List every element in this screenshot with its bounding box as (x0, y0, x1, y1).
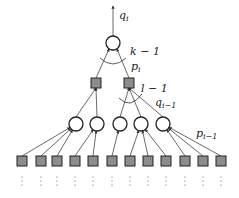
ellipsis-dot (220, 176, 221, 177)
circle-node (90, 117, 104, 131)
ellipsis-dot (147, 184, 148, 185)
ellipsis-dot (21, 184, 22, 185)
label-top-fanin: k − 1 (130, 45, 160, 58)
input-square-node (125, 156, 135, 166)
ellipsis-dot (40, 180, 41, 181)
top-fanin-arc (100, 58, 126, 64)
edges (22, 6, 221, 156)
ellipsis-dot (184, 180, 185, 181)
circle-node (134, 117, 148, 131)
input-square-node (88, 156, 98, 166)
edge-circle-to-square (96, 88, 97, 117)
input-square-node (216, 156, 226, 166)
ellipsis-dot (74, 180, 75, 181)
ellipsis-dot (184, 176, 185, 177)
edge-input-to-circle (142, 131, 148, 156)
label-bottom-edge: pi−1 (196, 127, 217, 141)
ellipsis-dot (165, 180, 166, 181)
ellipsis-dot (165, 184, 166, 185)
ellipsis-dot (21, 176, 22, 177)
nodes (17, 36, 226, 166)
input-square-node (161, 156, 171, 166)
ellipsis-dot (202, 180, 203, 181)
ellipsis-dot (111, 184, 112, 185)
top-circle-node (106, 36, 120, 50)
ellipsis-dot (220, 180, 221, 181)
circle-node (156, 117, 170, 131)
label-mid-edge: qi−1 (155, 96, 176, 110)
ellipsis-dot (40, 184, 41, 185)
ellipsis-dot (56, 184, 57, 185)
edge-square-to-top (96, 49, 109, 78)
mid-square-node (124, 78, 134, 88)
mid-fanin-arc (119, 94, 142, 103)
ellipsis-dot (111, 176, 112, 177)
ellipsis-dot (165, 176, 166, 177)
ellipsis-dot (111, 180, 112, 181)
ellipsis-dot (129, 184, 130, 185)
edge-input-to-circle (112, 131, 118, 156)
input-square-node (180, 156, 190, 166)
ellipsis-dot (147, 176, 148, 177)
edge-input-to-circle (145, 130, 166, 156)
input-square-node (52, 156, 62, 166)
input-square-node (70, 156, 80, 166)
input-square-node (36, 156, 46, 166)
ellipsis-dot (184, 184, 185, 185)
input-square-node (107, 156, 117, 166)
edge-circle-to-square (76, 88, 96, 117)
ellipsis-dot (92, 184, 93, 185)
tree-diagram: qi k − 1 pi l − 1 qi−1 pi−1 (0, 0, 239, 198)
input-square-node (17, 156, 27, 166)
input-square-node (198, 156, 208, 166)
ellipsis-dot (40, 176, 41, 177)
ellipsis-dot (202, 184, 203, 185)
edge-input-to-circle (75, 130, 93, 156)
circle-node (113, 117, 127, 131)
ellipsis-dot (147, 180, 148, 181)
label-top-output: qi (119, 9, 129, 23)
edge-input-to-circle (130, 131, 139, 156)
ellipsis-dot (92, 176, 93, 177)
edge-square-to-top (117, 49, 129, 78)
label-top-edge: pi (131, 60, 141, 74)
edge-input-to-circle (93, 131, 96, 156)
ellipsis-dot (220, 184, 221, 185)
ellipsis-dot (129, 180, 130, 181)
ellipsis-dot (129, 176, 130, 177)
ellipsis-dot (56, 176, 57, 177)
ellipsis-dot (202, 176, 203, 177)
ellipsis-dot (74, 176, 75, 177)
ellipsis-dot (56, 180, 57, 181)
ellipsis-dot (74, 184, 75, 185)
ellipsis-dot (21, 180, 22, 181)
input-square-node (143, 156, 153, 166)
continuation-dots (21, 176, 221, 185)
edge-input-to-circle (167, 130, 185, 156)
circle-node (69, 117, 83, 131)
mid-square-node (91, 78, 101, 88)
label-mid-fanin: l − 1 (141, 82, 168, 95)
ellipsis-dot (92, 180, 93, 181)
